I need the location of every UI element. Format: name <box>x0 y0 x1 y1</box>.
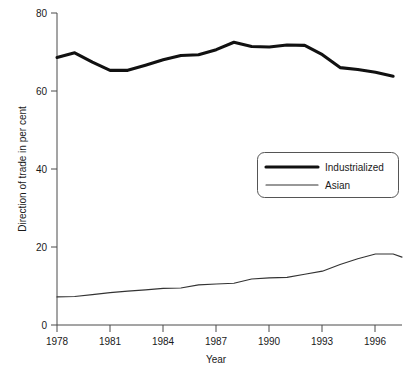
y-tick-label-80: 80 <box>36 8 48 19</box>
chart-figure: 0 20 40 60 80 1978 1981 1984 1987 1990 1… <box>0 0 417 382</box>
x-axis-title: Year <box>206 354 227 365</box>
y-tick-label-60: 60 <box>36 86 48 97</box>
y-axis-title: Direction of trade in per cent <box>17 106 28 232</box>
line-chart-plot: 0 20 40 60 80 1978 1981 1984 1987 1990 1… <box>0 0 417 382</box>
x-tick-label-1978: 1978 <box>46 336 69 347</box>
legend-label-asian: Asian <box>325 180 350 191</box>
x-tick-label-1984: 1984 <box>152 336 175 347</box>
legend-label-industrialized: Industrialized <box>325 162 384 173</box>
x-tick-label-1990: 1990 <box>258 336 281 347</box>
y-tick-label-20: 20 <box>36 242 48 253</box>
series-line-asian <box>57 254 402 297</box>
x-tick-label-1993: 1993 <box>311 336 334 347</box>
x-tick-label-1981: 1981 <box>99 336 122 347</box>
y-tick-label-40: 40 <box>36 164 48 175</box>
x-tick-label-1987: 1987 <box>205 336 228 347</box>
chart-legend: Industrialized Asian <box>258 153 399 198</box>
y-tick-label-0: 0 <box>41 320 47 331</box>
x-tick-label-1996: 1996 <box>364 336 387 347</box>
series-line-industrialized <box>57 42 393 76</box>
